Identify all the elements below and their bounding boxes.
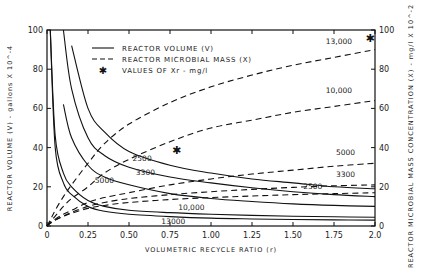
x-tick-label: 1.75 [325,231,343,240]
curve-label: 2500 [133,154,152,163]
curve-label: 13000 [161,217,185,226]
y-tick-label: 80 [33,65,43,74]
series-v-xr-3300 [63,30,375,197]
x-tick-label: 0.25 [79,231,97,240]
y-tick-label: 0 [38,222,43,231]
legend-label: REACTOR VOLUME (V) [122,45,214,53]
x-axis-title: VOLUMETRIC RECYCLE RATIO (r) [145,246,277,254]
y-tick-label-right: 20 [379,183,389,192]
x-tick-label: 2.0 [369,231,382,240]
y-axis-title-left: REACTOR VOLUME (V) - gallons X 10^-4 [6,45,14,211]
y-tick-label-right: 0 [379,222,384,231]
x-tick-label: 1.00 [202,231,220,240]
x-tick-label: 0.75 [161,231,179,240]
curve-label: 3300 [336,170,355,179]
curve-label: 10,000 [326,86,352,95]
star-marker-icon: ✱ [365,32,374,45]
x-tick-label: 0.50 [120,231,138,240]
x-tick-label: 0 [44,231,49,240]
y-tick-label-right: 60 [379,104,389,113]
y-tick-label-right: 40 [379,144,389,153]
y-tick-label: 60 [33,104,43,113]
series-v-xr-2500 [72,46,375,189]
y-tick-label: 40 [33,144,43,153]
curve-label: 13,000 [326,37,352,46]
y-tick-label: 100 [28,26,43,35]
series-v-xr-5000 [63,104,375,206]
legend-star-icon: ✱ [99,65,107,76]
legend: REACTOR VOLUME (V)REACTOR MICROBIAL MASS… [92,45,252,76]
y-tick-label-right: 100 [379,26,394,35]
x-tick-label: 1.50 [284,231,302,240]
curve-label: 2500 [303,182,322,191]
y-tick-label-right: 80 [379,65,389,74]
y-axis-title-right: REACTOR MICROBIAL MASS CONCENTRATION (X)… [407,4,415,268]
chart: 00.250.500.751.001.251.501.752.000202040… [0,0,426,273]
curve-label: 5000 [95,176,114,185]
y-tick-label: 20 [33,183,43,192]
series-x-xr-13000 [47,50,375,226]
curve-label: 10,000 [178,203,204,212]
curve-label: 3300 [136,168,155,177]
star-marker-icon: ✱ [172,144,181,157]
curve-label: 5000 [336,148,355,157]
legend-label: VALUES OF Xr - mg/l [122,67,208,75]
legend-label: REACTOR MICROBIAL MASS (X) [122,56,252,64]
x-tick-label: 1.25 [243,231,261,240]
